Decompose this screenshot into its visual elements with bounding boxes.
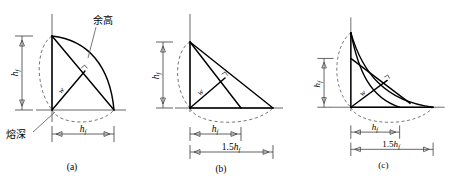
- pool-outline-bottom-dashed: [52, 110, 114, 122]
- dim-label-height: hf: [312, 80, 323, 88]
- height-label-sub: f: [14, 69, 21, 72]
- svg-text:hf: hf: [10, 69, 21, 77]
- panel-b-drawing: hf hf 1.5hf w (b): [145, 0, 300, 180]
- pool-outline-left-dashed: [178, 42, 190, 108]
- hypotenuse-inner: [190, 42, 241, 108]
- panel-a: hf hf w 余高 熔深 (a): [0, 0, 155, 180]
- reinforcement-label-cn: 余高: [93, 14, 113, 26]
- pool-outline-left-dashed: [337, 33, 351, 108]
- panel-b: hf hf 1.5hf w (b): [145, 0, 300, 180]
- dim-label-outer-width: 1.5hf: [222, 142, 242, 153]
- dim-label-outer-width: 1.5hf: [382, 139, 401, 150]
- height-label-sub: f: [317, 80, 323, 83]
- dim-label-inner-width: hf: [372, 122, 380, 133]
- outer-width-num: 1.5: [222, 142, 234, 152]
- weld-bead-geometry-figure: hf hf w 余高 熔深 (a): [0, 0, 465, 180]
- svg-text:hf: hf: [312, 80, 323, 88]
- throat-line-w: [190, 78, 225, 108]
- panel-a-drawing: hf hf w 余高 熔深 (a): [0, 0, 155, 180]
- panel-b-caption: (b): [215, 164, 226, 175]
- dim-label-height: hf: [151, 72, 162, 80]
- panel-c-caption: (c): [378, 160, 388, 170]
- panel-a-caption: (a): [67, 162, 78, 173]
- svg-text:hf: hf: [151, 72, 162, 80]
- pool-outline-bottom-dashed: [351, 107, 433, 122]
- right-angle-mark: [81, 65, 87, 68]
- reinforcement-leader-line: [88, 27, 96, 58]
- dim-label-height: hf: [10, 69, 21, 77]
- right-angle-mark: [384, 75, 389, 78]
- outer-width-num: 1.5: [382, 139, 394, 149]
- dim-label-inner-width: hf: [212, 124, 220, 135]
- concave-curve-inner: [351, 33, 400, 108]
- pool-outline-left-dashed: [39, 36, 52, 110]
- penetration-label-cn: 熔深: [6, 128, 26, 140]
- panel-c-drawing: hf hf 1.5hf w (c): [303, 0, 458, 180]
- panel-c: hf hf 1.5hf w (c): [303, 0, 458, 180]
- right-angle-mark: [222, 72, 228, 76]
- pool-outline-bottom-dashed: [190, 108, 273, 122]
- dim-label-width: hf: [80, 124, 88, 135]
- height-label-sub: f: [155, 72, 162, 75]
